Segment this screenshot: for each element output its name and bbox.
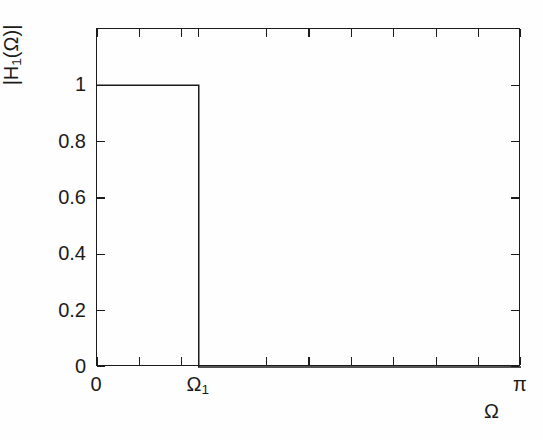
x-axis-tick	[351, 357, 352, 365]
y-axis-title-post: (Ω)|	[0, 25, 22, 58]
x-axis-tick-label: Ω1	[168, 374, 228, 400]
y-axis-tick-label: 0.2	[4, 300, 86, 320]
x-axis-tick-top	[436, 29, 437, 37]
x-axis-title: Ω	[484, 400, 499, 423]
y-axis-tick	[97, 254, 105, 255]
y-axis-tick-label: 0.4	[4, 243, 86, 263]
magnitude-response-path	[97, 85, 521, 367]
y-axis-tick-right	[511, 85, 519, 86]
x-axis-tick	[436, 357, 437, 365]
y-axis-title-sub: 1	[9, 58, 24, 66]
y-axis-tick-label: 1	[4, 74, 86, 94]
y-axis-tick	[97, 197, 105, 198]
x-axis-tick	[478, 357, 479, 365]
x-tick-omega: Ω	[186, 373, 201, 395]
x-axis-tick	[308, 357, 309, 365]
x-axis-tick	[393, 357, 394, 365]
y-axis-tick	[97, 310, 105, 311]
y-axis-tick-label: 0	[4, 356, 86, 376]
data-curve	[97, 29, 521, 367]
plot-area	[96, 28, 520, 366]
y-axis-tick-label: 0.6	[4, 187, 86, 207]
x-axis-tick-label: 0	[66, 374, 126, 394]
x-tick-omega-sub: 1	[201, 382, 209, 397]
x-axis-tick	[139, 357, 140, 365]
x-axis-tick	[198, 357, 199, 365]
x-axis-tick-top	[139, 29, 140, 37]
y-axis-tick-right	[511, 254, 519, 255]
x-axis-tick-top	[520, 29, 521, 37]
x-axis-tick-label: π	[490, 374, 543, 394]
x-axis-tick	[97, 357, 98, 365]
x-axis-tick-top	[478, 29, 479, 37]
x-axis-tick	[266, 357, 267, 365]
y-axis-tick-label: 0.8	[4, 131, 86, 151]
figure-ideal-lowpass-magnitude-response: |H1(Ω)| Ω 0Ω1π10.80.60.40.20	[0, 0, 543, 440]
y-axis-tick-right	[511, 310, 519, 311]
y-axis-tick	[97, 366, 105, 367]
y-axis-tick-right	[511, 197, 519, 198]
x-axis-tick-top	[266, 29, 267, 37]
x-axis-tick	[181, 357, 182, 365]
x-axis-tick-top	[198, 29, 199, 37]
y-axis-tick	[97, 85, 105, 86]
x-axis-tick-top	[308, 29, 309, 37]
y-axis-tick-right	[511, 366, 519, 367]
x-axis-tick	[520, 357, 521, 365]
x-axis-tick-top	[351, 29, 352, 37]
x-axis-tick-top	[97, 29, 98, 37]
y-axis-tick	[97, 141, 105, 142]
x-axis-tick-top	[181, 29, 182, 37]
x-axis-tick-top	[393, 29, 394, 37]
y-axis-tick-right	[511, 141, 519, 142]
